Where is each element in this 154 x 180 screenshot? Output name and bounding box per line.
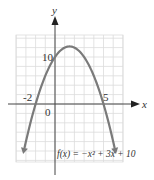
origin-label: 0 xyxy=(45,106,51,118)
function-label: f(x) = −x² + 3x + 10 xyxy=(57,149,136,160)
parabola-curve xyxy=(24,46,114,148)
x-axis-label: x xyxy=(141,98,147,110)
y-axis-arrow-icon xyxy=(52,16,59,25)
x-axis-arrow-icon xyxy=(131,101,140,108)
y-tick-10: 10 xyxy=(42,51,54,63)
function-graph: y x 10 -2 5 0 f(x) = −x² + 3x + 10 xyxy=(0,0,154,180)
y-axis-label: y xyxy=(51,4,57,16)
x-tick-5: 5 xyxy=(103,91,109,103)
x-tick-neg2: -2 xyxy=(23,91,32,103)
